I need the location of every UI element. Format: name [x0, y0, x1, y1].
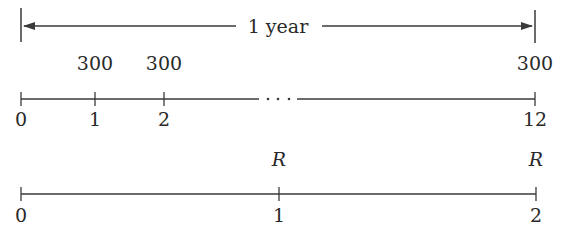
payment-amount-12: 300	[517, 52, 553, 74]
period-label-1: 1	[89, 108, 101, 130]
period-label-12: 12	[523, 108, 547, 130]
year-label-0: 0	[15, 204, 27, 226]
year-label-2: 2	[530, 204, 542, 226]
year-label-1: 1	[273, 204, 285, 226]
span-label: 1 year	[248, 15, 309, 37]
monthly-timeline: 300 300 300 0 1 2 12	[15, 52, 553, 130]
yearly-timeline: R R 0 1 2	[15, 148, 543, 226]
payment-amount-1: 300	[77, 52, 113, 74]
ellipsis-icon	[267, 98, 291, 101]
payment-amount-year-2: R	[528, 148, 543, 170]
one-year-span: 1 year	[21, 8, 535, 43]
payment-amount-year-1: R	[271, 148, 286, 170]
period-label-2: 2	[158, 108, 170, 130]
right-arrowhead-icon	[521, 22, 533, 30]
cash-flow-timeline-diagram: 1 year 300 300 300 0 1 2 12 R	[0, 0, 562, 237]
period-label-0: 0	[15, 108, 27, 130]
payment-amount-2: 300	[146, 52, 182, 74]
left-arrowhead-icon	[23, 22, 35, 30]
